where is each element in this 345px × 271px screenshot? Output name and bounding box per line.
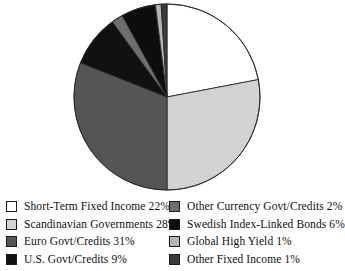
legend-item-global-high-yield[interactable]: Global High Yield 1% <box>169 233 339 251</box>
chart-legend: Short-Term Fixed Income 22% Scandinavian… <box>0 198 339 271</box>
pie-slice-group <box>74 4 260 190</box>
legend-swatch-other-fixed-income <box>169 254 180 265</box>
legend-item-scandinavian-governments[interactable]: Scandinavian Governments 28% <box>6 216 165 234</box>
legend-swatch-us-govt-credits <box>6 254 17 265</box>
legend-column-right: Other Currency Govt/Credits 2% Swedish I… <box>165 198 339 271</box>
legend-label-scandinavian-governments: Scandinavian Governments 28% <box>24 219 178 231</box>
pie-chart-area <box>0 0 339 196</box>
legend-column-left: Short-Term Fixed Income 22% Scandinavian… <box>0 198 165 271</box>
legend-swatch-swedish-index-linked-bonds <box>169 219 180 230</box>
legend-label-global-high-yield: Global High Yield 1% <box>187 236 292 248</box>
legend-label-short-term-fixed-income: Short-Term Fixed Income 22% <box>24 201 170 213</box>
pie-chart-svg <box>0 0 339 196</box>
legend-swatch-euro-govt-credits <box>6 236 17 247</box>
legend-label-other-fixed-income: Other Fixed Income 1% <box>187 254 300 266</box>
legend-item-us-govt-credits[interactable]: U.S. Govt/Credits 9% <box>6 251 165 269</box>
legend-label-euro-govt-credits: Euro Govt/Credits 31% <box>24 236 135 248</box>
legend-swatch-other-currency-govt-credits <box>169 201 180 212</box>
legend-item-other-fixed-income[interactable]: Other Fixed Income 1% <box>169 251 339 269</box>
legend-swatch-global-high-yield <box>169 236 180 247</box>
legend-swatch-short-term-fixed-income <box>6 201 17 212</box>
pie-slice-scandinavian-governments[interactable] <box>167 80 260 190</box>
legend-item-swedish-index-linked-bonds[interactable]: Swedish Index-Linked Bonds 6% <box>169 216 339 234</box>
legend-item-short-term-fixed-income[interactable]: Short-Term Fixed Income 22% <box>6 198 165 216</box>
legend-item-other-currency-govt-credits[interactable]: Other Currency Govt/Credits 2% <box>169 198 339 216</box>
legend-label-swedish-index-linked-bonds: Swedish Index-Linked Bonds 6% <box>187 219 345 231</box>
legend-label-other-currency-govt-credits: Other Currency Govt/Credits 2% <box>187 201 342 213</box>
legend-swatch-scandinavian-governments <box>6 219 17 230</box>
legend-item-euro-govt-credits[interactable]: Euro Govt/Credits 31% <box>6 233 165 251</box>
legend-label-us-govt-credits: U.S. Govt/Credits 9% <box>24 254 127 266</box>
